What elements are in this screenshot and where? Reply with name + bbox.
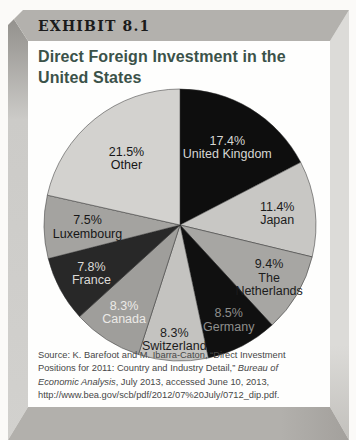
content-panel: Direct Foreign Investment in the United … xyxy=(28,41,330,407)
exhibit-card: EXHIBIT 8.1 Direct Foreign Investment in… xyxy=(0,0,356,440)
pie-chart-area: 17.4%United Kingdom11.4%Japan9.4%TheNeth… xyxy=(40,85,320,365)
frame-bottom-band xyxy=(8,407,349,440)
pie-chart: 17.4%United Kingdom11.4%Japan9.4%TheNeth… xyxy=(40,85,320,365)
source-note: Source: K. Barefoot and M. Ibarra-Caton,… xyxy=(38,349,318,402)
chart-title-line1: Direct Foreign Investment in the xyxy=(38,47,322,68)
pie-label-japan: 11.4%Japan xyxy=(260,200,295,228)
plaque-frame: EXHIBIT 8.1 Direct Foreign Investment in… xyxy=(8,10,349,440)
pie-label-france: 7.8%France xyxy=(72,260,111,288)
pie-label-other: 21.5%Other xyxy=(109,145,144,173)
exhibit-number-label: EXHIBIT 8.1 xyxy=(38,10,151,41)
chart-title: Direct Foreign Investment in the United … xyxy=(38,47,322,88)
frame-right-strip xyxy=(330,10,349,440)
frame-left-strip xyxy=(8,10,28,440)
